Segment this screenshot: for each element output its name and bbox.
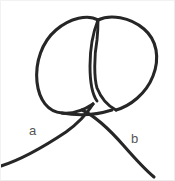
knot-drawing-canvas bbox=[0, 0, 175, 181]
endpoint-label-b: b bbox=[131, 132, 138, 145]
knot-figure: a b bbox=[0, 0, 175, 181]
endpoint-label-a: a bbox=[29, 124, 36, 137]
